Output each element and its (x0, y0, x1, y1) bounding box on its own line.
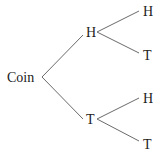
edge-root-t (42, 77, 83, 119)
leaf-tt-label: T (143, 137, 152, 152)
node-t-label: T (86, 112, 95, 127)
edge-t-t (97, 119, 139, 141)
leaf-ht-label: T (143, 48, 152, 63)
edge-h-t (97, 32, 139, 53)
leaf-th-label: H (143, 91, 153, 106)
edge-h-h (97, 11, 139, 32)
coin-tree-diagram: Coin H T H T H T (0, 0, 160, 163)
edge-t-h (97, 98, 139, 119)
edge-root-h (42, 35, 83, 77)
leaf-hh-label: H (143, 4, 153, 19)
root-node-label: Coin (7, 70, 34, 85)
node-h-label: H (86, 25, 96, 40)
